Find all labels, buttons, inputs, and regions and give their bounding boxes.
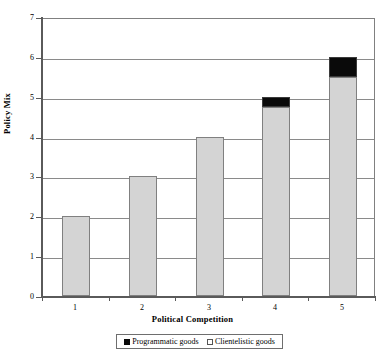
x-tick-mark-5 <box>375 297 376 301</box>
bar-group-3 <box>196 17 224 296</box>
y-tick-label-2: 2 <box>8 213 34 221</box>
x-tick-label-5: 5 <box>322 303 362 312</box>
legend-label-programmatic: Programmatic goods <box>132 337 198 346</box>
bar-segment-clientelistic-4 <box>262 107 290 296</box>
legend-label-clientelistic: Clientelistic goods <box>215 337 275 346</box>
y-tick-label-6: 6 <box>8 54 34 62</box>
bar-group-1 <box>62 17 90 296</box>
plot-area <box>42 18 375 297</box>
empty-square-icon <box>207 339 213 345</box>
x-axis-line <box>41 296 376 298</box>
x-tick-mark-4 <box>308 297 309 301</box>
y-tick-label-7: 7 <box>8 14 34 22</box>
y-axis-line <box>41 17 43 298</box>
x-tick-mark-0 <box>42 297 43 301</box>
legend-item-clientelistic: Clientelistic goods <box>207 337 275 346</box>
x-tick-mark-3 <box>242 297 243 301</box>
y-tick-label-0: 0 <box>8 293 34 301</box>
y-axis-title: Policy Mix <box>2 93 12 134</box>
x-tick-mark-1 <box>109 297 110 301</box>
bar-segment-clientelistic-3 <box>196 137 224 296</box>
y-tick-label-1: 1 <box>8 253 34 261</box>
bar-group-5 <box>329 17 357 296</box>
filled-square-icon <box>124 339 130 345</box>
bar-segment-programmatic-4 <box>262 97 290 107</box>
y-tick-label-4: 4 <box>8 134 34 142</box>
y-tick-label-3: 3 <box>8 173 34 181</box>
legend-item-programmatic: Programmatic goods <box>124 337 198 346</box>
stacked-bar-chart-figure: 01234567 12345 Policy Mix Political Comp… <box>0 0 385 361</box>
bar-segment-clientelistic-1 <box>62 216 90 296</box>
bar-segment-clientelistic-5 <box>329 77 357 296</box>
x-tick-label-4: 4 <box>255 303 295 312</box>
x-tick-label-1: 1 <box>55 303 95 312</box>
bar-group-4 <box>262 17 290 296</box>
bar-group-2 <box>129 17 157 296</box>
x-tick-label-3: 3 <box>189 303 229 312</box>
x-axis-title: Political Competition <box>0 314 385 324</box>
x-tick-mark-2 <box>175 297 176 301</box>
chart-legend: Programmatic goods Clientelistic goods <box>116 334 283 349</box>
bar-segment-programmatic-5 <box>329 57 357 77</box>
bar-segment-clientelistic-2 <box>129 176 157 296</box>
x-tick-label-2: 2 <box>122 303 162 312</box>
